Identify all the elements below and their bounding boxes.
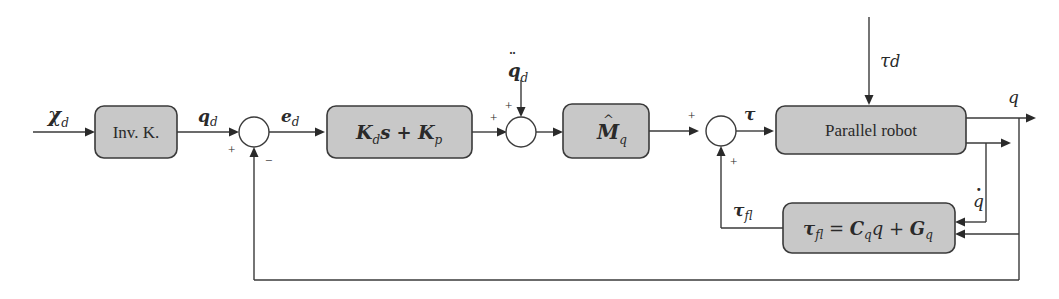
label-qd: qd bbox=[198, 106, 218, 129]
label-tau-d: τd bbox=[880, 50, 900, 71]
signal-tau-fl: τfl bbox=[717, 146, 784, 228]
sign-plus: + bbox=[505, 98, 512, 113]
summing-junction-feedforward bbox=[506, 117, 536, 147]
inv-k-label: Inv. K. bbox=[113, 123, 160, 142]
label-q: q bbox=[1008, 87, 1019, 107]
signal-qdot-output bbox=[966, 139, 1011, 148]
signal-q-output: q bbox=[966, 87, 1036, 123]
label-tau: τ bbox=[744, 104, 756, 124]
pd-controller-block: Kds + Kp bbox=[327, 106, 472, 158]
signal-tau-disturbance: τd bbox=[865, 17, 901, 105]
signal-qd: qd bbox=[177, 106, 239, 137]
signal-pd-output: + bbox=[472, 110, 507, 137]
mass-matrix-block: Mq ^ bbox=[563, 104, 649, 158]
label-xd: χd bbox=[46, 103, 69, 130]
parallel-robot-block: Parallel robot bbox=[776, 106, 966, 154]
label-tau-fl: τfl bbox=[733, 200, 752, 223]
feedback-linearization-block: τfl = Cqq + Gq bbox=[783, 203, 955, 253]
label-ed: ed bbox=[281, 106, 300, 129]
signal-mass-output: + bbox=[649, 108, 699, 136]
dot-accent: · bbox=[976, 180, 982, 199]
sign-plus: + bbox=[490, 110, 497, 125]
sign-plus: + bbox=[730, 154, 737, 169]
robot-label: Parallel robot bbox=[825, 121, 917, 140]
qdot-feedback-path: q · bbox=[955, 143, 986, 227]
sign-minus: − bbox=[265, 153, 272, 168]
hat-accent: ^ bbox=[603, 112, 614, 127]
summing-junction-error: + − bbox=[228, 117, 272, 168]
inverse-kinematics-block: Inv. K. bbox=[95, 106, 177, 158]
double-dot-accent: ¨ bbox=[509, 51, 516, 67]
input-signal-xd: χd bbox=[33, 103, 95, 137]
signal-ed: ed bbox=[269, 106, 325, 137]
sign-plus: + bbox=[688, 108, 695, 123]
signal-tau: τ bbox=[736, 104, 774, 136]
block-diagram: χd Inv. K. qd + − ed Kds + Kp + qd ¨ bbox=[0, 0, 1059, 299]
signal-to-mass bbox=[536, 128, 563, 137]
sign-plus: + bbox=[228, 142, 235, 157]
signal-qdd-feedforward: qd ¨ + bbox=[505, 51, 529, 117]
